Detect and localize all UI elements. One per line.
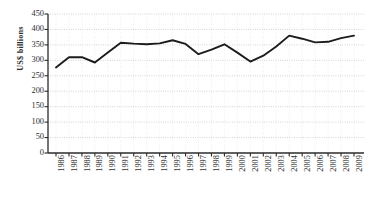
x-tick-label: 2007: [332, 155, 340, 172]
x-tick-label: 1987: [73, 155, 81, 172]
y-tick-label: 0: [10, 149, 44, 157]
x-tick-label: 1988: [86, 155, 94, 172]
x-tick-label: 1998: [215, 155, 223, 172]
gridlines: [48, 14, 364, 138]
x-tick-label: 1986: [60, 155, 68, 172]
y-tick-label: 300: [10, 56, 44, 64]
x-tick-label: 1997: [202, 155, 210, 172]
x-tick-label: 1994: [163, 155, 171, 172]
x-tick-label: 2008: [345, 155, 353, 172]
x-tick-label: 2006: [319, 155, 327, 172]
x-tick-label: 1992: [137, 155, 145, 172]
x-tick-label: 2002: [267, 155, 275, 172]
x-tick-label: 1991: [124, 155, 132, 172]
y-tick-label: 450: [10, 10, 44, 18]
y-tick-label: 250: [10, 72, 44, 80]
x-tick-label: 1995: [176, 155, 184, 172]
y-axis-tick-labels: 050100150200250300350400450: [8, 14, 44, 153]
y-tick-label: 100: [10, 118, 44, 126]
x-tick-label: 2009: [358, 155, 366, 172]
x-gridlines: [56, 14, 354, 153]
y-tick-label: 150: [10, 102, 44, 110]
x-tick-label: 1990: [111, 155, 119, 172]
y-tick-label: 200: [10, 87, 44, 95]
x-tick-label: 2004: [293, 155, 301, 172]
data-series-line: [56, 36, 354, 68]
x-tick-label: 2000: [241, 155, 249, 172]
line-chart-svg: [48, 14, 364, 153]
y-tick-label: 350: [10, 41, 44, 49]
y-tick-label: 400: [10, 25, 44, 33]
x-tick-label: 2001: [254, 155, 262, 172]
x-tick-label: 1993: [150, 155, 158, 172]
x-tick-label: 1999: [228, 155, 236, 172]
axis-ticks: [45, 14, 355, 157]
x-axis-tick-labels: 1986198719881989199019911992199319941995…: [48, 155, 364, 200]
y-tick-label: 50: [10, 133, 44, 141]
x-tick-label: 2003: [280, 155, 288, 172]
plot-area: [48, 14, 364, 153]
x-tick-label: 1996: [189, 155, 197, 172]
x-tick-label: 2005: [306, 155, 314, 172]
x-tick-label: 1989: [98, 155, 106, 172]
figure-chart-us-billions: US$ billions 050100150200250300350400450…: [0, 0, 372, 200]
